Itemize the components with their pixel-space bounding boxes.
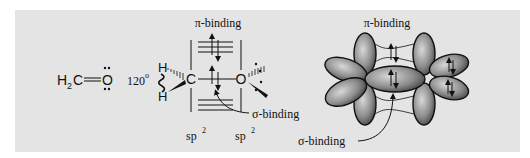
lewis-c: C bbox=[73, 72, 83, 88]
pi-binding-label-right: π-binding bbox=[364, 16, 411, 30]
oxygen-atom: O bbox=[236, 71, 247, 87]
sigma-binding-label-right: σ-binding bbox=[298, 134, 345, 148]
lone-pair-dot bbox=[104, 67, 106, 69]
right-orbital-diagram: π-binding σ-binding bbox=[298, 16, 471, 148]
svg-text:2: 2 bbox=[202, 126, 206, 135]
lewis-structure: H 2 C O bbox=[57, 67, 113, 91]
svg-text:o: o bbox=[145, 71, 149, 80]
carbon-atom: C bbox=[186, 71, 196, 87]
formaldehyde-bonding-diagram: H 2 C O 120 o π-binding bbox=[0, 0, 530, 158]
bond-angle-label: 120 o bbox=[127, 71, 149, 88]
lewis-o: O bbox=[102, 72, 113, 88]
hydrogen-top: H bbox=[158, 60, 167, 75]
oxygen-hybridization: sp bbox=[235, 129, 246, 143]
carbon-hybridization: sp bbox=[186, 129, 197, 143]
svg-text:2: 2 bbox=[251, 126, 255, 135]
lone-pair-dot bbox=[104, 88, 106, 90]
pi-binding-label: π-binding bbox=[195, 16, 242, 30]
lone-pair-dot bbox=[108, 88, 110, 90]
left-orbital-diagram: π-binding C O H H bbox=[158, 16, 299, 143]
lewis-subscript: 2 bbox=[67, 81, 72, 91]
lone-pair-dot bbox=[108, 67, 110, 69]
sigma-binding-label: σ-binding bbox=[252, 107, 299, 121]
lewis-h: H bbox=[57, 72, 67, 88]
svg-text:120: 120 bbox=[127, 74, 145, 88]
